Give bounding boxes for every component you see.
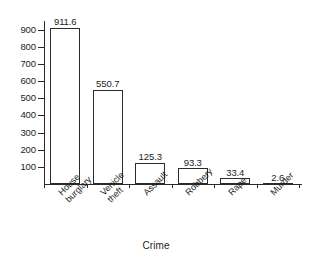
plot-area: 911.6550.7125.393.333.42.6 [44, 18, 299, 184]
bar-value-label: 125.3 [139, 152, 162, 162]
bar-group: 550.7 [93, 18, 123, 184]
x-axis-tick [214, 184, 215, 188]
y-axis-tick-label: 900 [0, 25, 36, 35]
y-axis-tick-label: 300 [0, 128, 36, 138]
x-axis-title: Crime [0, 240, 312, 251]
x-axis-tick [44, 184, 45, 188]
y-axis-tick-label: 500 [0, 93, 36, 103]
bar-value-label: 93.3 [184, 158, 202, 168]
bar[interactable]: 911.6 [50, 28, 80, 184]
x-axis-tick [172, 184, 173, 188]
bar-group: 911.6 [50, 18, 80, 184]
bar-group: 33.4 [220, 18, 250, 184]
bar-chart: 100200300400500600700800900 911.6550.712… [0, 0, 312, 262]
x-axis-tick [257, 184, 258, 188]
bar-group: 2.6 [263, 18, 293, 184]
y-axis-tick-label: 700 [0, 59, 36, 69]
bar-value-label: 911.6 [54, 17, 77, 27]
y-axis-tick-label: 200 [0, 145, 36, 155]
x-axis-tick [299, 184, 300, 188]
bar-value-label: 550.7 [96, 79, 119, 89]
y-axis-tick-label: 800 [0, 42, 36, 52]
y-axis-tick-label: 600 [0, 76, 36, 86]
y-axis-tick-label: 100 [0, 162, 36, 172]
bar-group: 125.3 [135, 18, 165, 184]
y-axis-tick-label: 400 [0, 110, 36, 120]
bar-group: 93.3 [178, 18, 208, 184]
